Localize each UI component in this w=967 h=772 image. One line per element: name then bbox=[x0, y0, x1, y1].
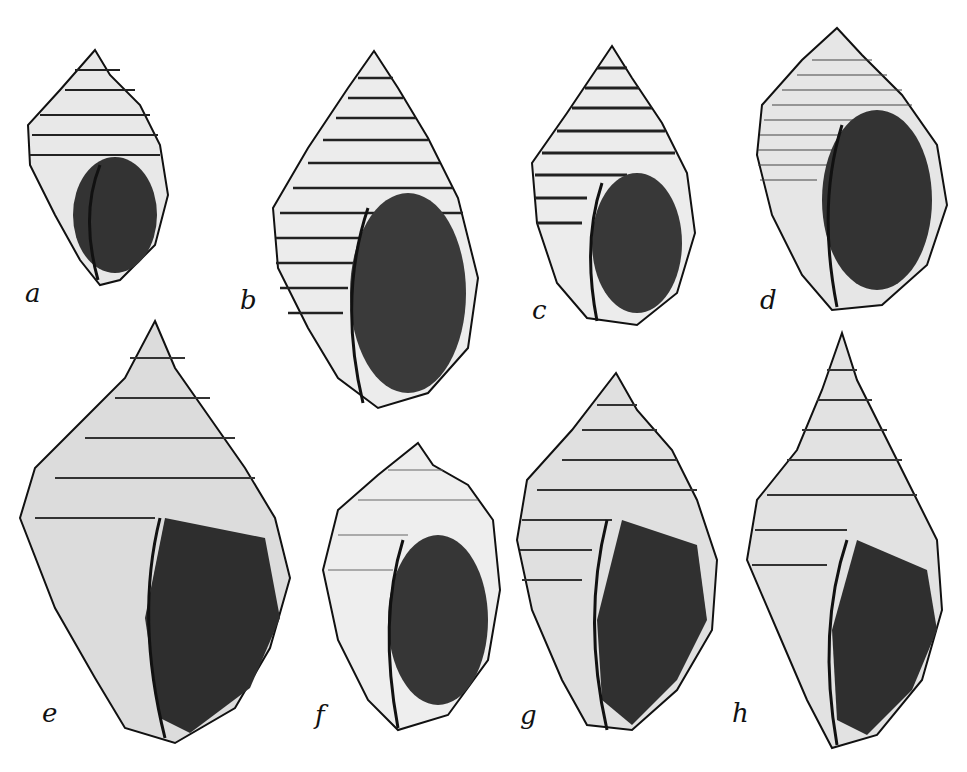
figure-label-b: b bbox=[240, 285, 257, 315]
figure-label-e: e bbox=[42, 698, 57, 728]
shell-h-illustration bbox=[737, 330, 947, 750]
shell-f-illustration bbox=[318, 440, 503, 735]
shell-a-illustration bbox=[20, 45, 170, 290]
shell-figure-d bbox=[752, 25, 948, 315]
figure-label-c: c bbox=[532, 295, 547, 325]
shell-b-illustration bbox=[268, 48, 480, 413]
shell-figure-f bbox=[318, 440, 503, 735]
shell-d-illustration bbox=[752, 25, 948, 315]
figure-label-a: a bbox=[25, 278, 41, 308]
shell-e-illustration bbox=[15, 318, 295, 748]
figure-label-d: d bbox=[760, 285, 777, 315]
shell-figure-e bbox=[15, 318, 295, 748]
figure-label-g: g bbox=[520, 700, 537, 730]
shell-figure-h bbox=[737, 330, 947, 750]
shell-g-illustration bbox=[512, 370, 720, 740]
shell-figure-b bbox=[268, 48, 480, 413]
shell-figure-g bbox=[512, 370, 720, 740]
figure-label-h: h bbox=[732, 698, 749, 728]
shell-figure-a bbox=[20, 45, 170, 290]
shell-figure-c bbox=[527, 43, 697, 328]
figure-label-f: f bbox=[315, 700, 325, 730]
shell-plate: a b c bbox=[0, 0, 967, 772]
shell-c-illustration bbox=[527, 43, 697, 328]
